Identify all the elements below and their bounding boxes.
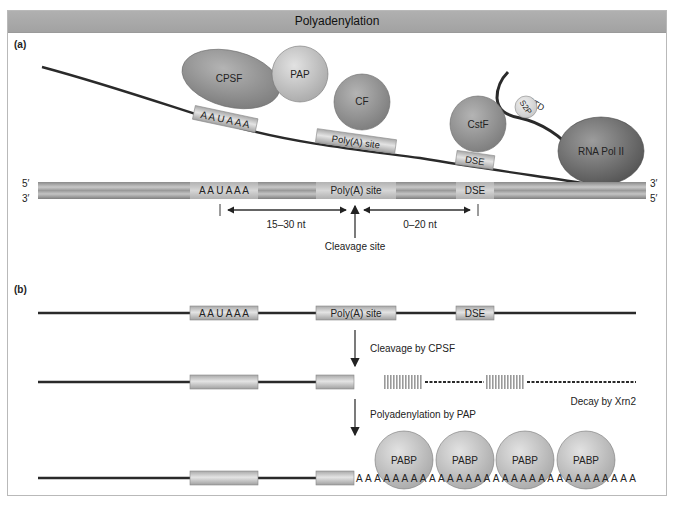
polya-tail: A A A A A A A A A A A A A A A A A A A A … bbox=[356, 473, 636, 484]
svg-text:Poly(A) site: Poly(A) site bbox=[330, 308, 382, 319]
dna-right-3prime: 3′ bbox=[650, 178, 658, 189]
cleavage-site-label: Cleavage site bbox=[325, 241, 386, 252]
dna-polya-site: Poly(A) site bbox=[330, 185, 382, 196]
pre-mrna: A A U A A A Poly(A) site DSE bbox=[38, 306, 636, 320]
rna-element-dse: DSE bbox=[455, 150, 495, 169]
svg-text:PABP: PABP bbox=[452, 455, 478, 466]
distance-markers bbox=[220, 204, 478, 238]
dna-aauaaa: A A U A A A bbox=[199, 185, 249, 196]
cf-protein: CF bbox=[334, 74, 390, 130]
panel-a-label: (a) bbox=[14, 39, 26, 50]
decay-label: Decay by Xrn2 bbox=[570, 396, 636, 407]
svg-text:CPSF: CPSF bbox=[216, 73, 243, 84]
distance-upstream: 15–30 nt bbox=[267, 219, 306, 230]
pap-protein: PAP bbox=[272, 46, 328, 102]
rna-element-aauaaa: A A U A A A bbox=[192, 106, 258, 133]
dna-duplex: A A U A A A Poly(A) site DSE bbox=[38, 182, 646, 199]
cstf-protein: CstF bbox=[450, 96, 506, 152]
svg-text:PABP: PABP bbox=[391, 455, 417, 466]
svg-text:PAP: PAP bbox=[290, 69, 310, 80]
cpsf-protein: CPSF bbox=[176, 40, 287, 119]
svg-text:A A U A A A: A A U A A A bbox=[199, 308, 249, 319]
svg-text:CF: CF bbox=[355, 96, 368, 107]
dna-dse: DSE bbox=[465, 185, 486, 196]
svg-text:PABP: PABP bbox=[573, 455, 599, 466]
dna-right-5prime: 5′ bbox=[650, 193, 658, 204]
dna-top-5prime: 5′ bbox=[22, 178, 30, 189]
svg-text:CstF: CstF bbox=[467, 119, 488, 130]
svg-text:PABP: PABP bbox=[512, 455, 538, 466]
polyadenylation-diagram: (a) CTD A A U A A A Poly(A) site DSE CPS… bbox=[0, 0, 674, 508]
distance-downstream: 0–20 nt bbox=[403, 219, 437, 230]
polyadenylated-mrna bbox=[38, 471, 354, 485]
polyadenylation-step-label: Polyadenylation by PAP bbox=[370, 409, 476, 420]
cleavage-step-label: Cleavage by CPSF bbox=[370, 343, 455, 354]
decaying-fragment bbox=[384, 375, 636, 389]
rna-pol-ii: RNA Pol II bbox=[558, 117, 644, 185]
cleaved-mrna bbox=[38, 375, 354, 389]
panel-b-label: (b) bbox=[14, 284, 27, 295]
svg-text:RNA Pol II: RNA Pol II bbox=[578, 146, 624, 157]
svg-text:DSE: DSE bbox=[465, 308, 486, 319]
dna-bottom-3prime: 3′ bbox=[22, 193, 30, 204]
s2p-protein: S2P bbox=[515, 96, 537, 118]
